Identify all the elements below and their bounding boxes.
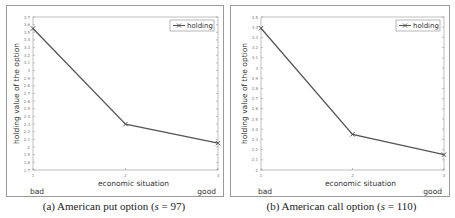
y-tick-label: 3.7 bbox=[24, 15, 31, 20]
y-tick-label: 2.3 bbox=[252, 137, 259, 142]
caption-value: = 97) bbox=[159, 200, 185, 212]
y-tick-label: 3.5 bbox=[24, 30, 31, 35]
plot-area bbox=[261, 17, 444, 170]
y-axis-label: holding value of the option bbox=[240, 43, 249, 144]
caption-text: (a) American put option ( bbox=[43, 200, 155, 212]
series-line bbox=[261, 28, 444, 154]
y-tick-label: 2 bbox=[255, 168, 258, 173]
y-tick-label: 3 bbox=[255, 66, 258, 71]
x-tick-label: 1 bbox=[32, 173, 35, 178]
caption-value: = 110) bbox=[385, 200, 416, 212]
y-axis-label: holding value of the option bbox=[12, 43, 21, 144]
y-tick-label: 3.3 bbox=[252, 35, 259, 40]
line-chart-put-option: 1.71.81.922.12.22.32.42.52.62.72.82.933.… bbox=[0, 0, 228, 200]
legend-label: holding bbox=[187, 22, 213, 30]
y-tick-label: 1.9 bbox=[24, 152, 31, 157]
y-tick-label: 3.2 bbox=[24, 53, 31, 58]
x-tick-label: 2 bbox=[124, 173, 127, 178]
plot-area bbox=[33, 17, 218, 170]
y-tick-label: 3.4 bbox=[24, 37, 31, 42]
y-tick-label: 2 bbox=[27, 145, 30, 150]
y-tick-label: 2.1 bbox=[24, 137, 31, 142]
y-tick-label: 3 bbox=[27, 68, 30, 73]
x-tick-label: 3 bbox=[217, 173, 220, 178]
y-tick-label: 2.8 bbox=[24, 83, 31, 88]
x-axis-label: economic situation bbox=[325, 179, 396, 188]
y-tick-label: 1.7 bbox=[24, 168, 31, 173]
figure-caption-a: (a) American put option (s = 97) bbox=[0, 200, 228, 212]
y-tick-label: 2.4 bbox=[24, 114, 31, 119]
y-tick-label: 2.9 bbox=[252, 76, 259, 81]
y-tick-label: 1.8 bbox=[24, 160, 31, 165]
y-tick-label: 2.3 bbox=[24, 122, 31, 127]
y-tick-label: 2.6 bbox=[24, 99, 31, 104]
y-tick-label: 3.1 bbox=[252, 55, 259, 60]
y-tick-label: 2.7 bbox=[252, 96, 259, 101]
y-tick-label: 2.6 bbox=[252, 106, 259, 111]
legend-label: holding bbox=[413, 22, 439, 30]
y-tick-label: 2.9 bbox=[24, 76, 31, 81]
x-tick-label: 2 bbox=[351, 173, 354, 178]
figure-caption-b: (b) American call option (s = 110) bbox=[228, 200, 455, 212]
series-line bbox=[33, 28, 218, 143]
y-tick-label: 2.7 bbox=[24, 91, 31, 96]
y-tick-label: 3.4 bbox=[252, 25, 259, 30]
x-tick-label: 3 bbox=[443, 173, 446, 178]
y-tick-label: 2.4 bbox=[252, 127, 259, 132]
y-tick-label: 2.2 bbox=[252, 147, 259, 152]
x-annotation-good: good bbox=[423, 187, 442, 196]
y-tick-label: 2.5 bbox=[252, 117, 259, 122]
y-tick-label: 2.8 bbox=[252, 86, 259, 91]
x-axis-label: economic situation bbox=[98, 179, 169, 188]
y-tick-label: 3.6 bbox=[24, 22, 31, 27]
x-annotation-bad: bad bbox=[30, 187, 44, 196]
y-tick-label: 3.2 bbox=[252, 45, 259, 50]
y-tick-label: 3.1 bbox=[24, 60, 31, 65]
y-tick-label: 2.1 bbox=[252, 157, 259, 162]
y-tick-label: 2.2 bbox=[24, 129, 31, 134]
caption-text: (b) American call option ( bbox=[267, 200, 381, 212]
x-tick-label: 1 bbox=[260, 173, 263, 178]
y-tick-label: 3.5 bbox=[252, 15, 259, 20]
line-chart-call-option: 22.12.22.32.42.52.62.72.82.933.13.23.33.… bbox=[228, 0, 455, 200]
y-tick-label: 3.3 bbox=[24, 45, 31, 50]
x-annotation-bad: bad bbox=[258, 187, 272, 196]
x-annotation-good: good bbox=[197, 187, 216, 196]
y-tick-label: 2.5 bbox=[24, 106, 31, 111]
